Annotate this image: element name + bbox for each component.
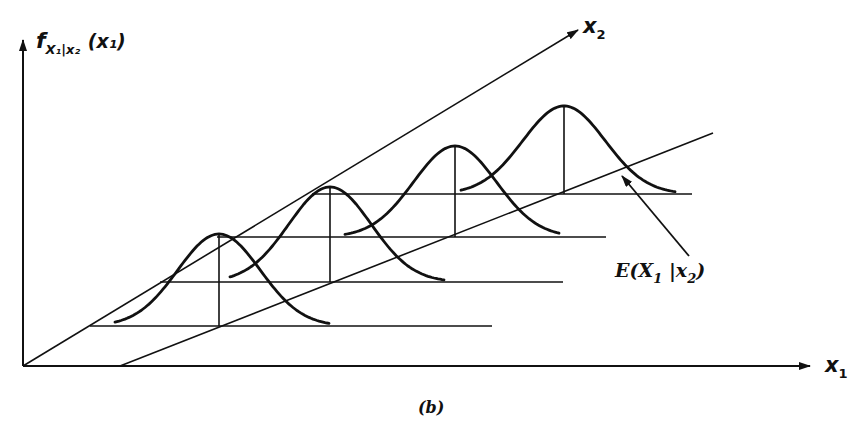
expectation-sub1: 1 [653, 271, 662, 286]
regression-line-label: E(X1 |x2) [615, 259, 705, 281]
expectation-close: ) [696, 259, 705, 281]
x2-axis [23, 30, 578, 366]
conditional-density-diagram [0, 0, 866, 437]
density-symbol: f [36, 28, 46, 53]
regression-line [120, 133, 713, 366]
x2-subscript: 2 [597, 27, 606, 42]
x1-axis-label: x1 [825, 353, 848, 377]
density-argument: (x₁) [88, 30, 126, 52]
expectation-text: E(X [615, 259, 653, 281]
x2-symbol: x [583, 14, 597, 38]
density-curve-1 [115, 234, 329, 323]
density-axis-label: fX₁|x₂ (x₁) [36, 28, 126, 53]
conditional-density-curves [90, 106, 692, 326]
x1-symbol: x [825, 353, 839, 377]
figure-caption: (b) [418, 398, 444, 417]
expectation-sub2: 2 [687, 271, 696, 286]
x2-axis-label: x2 [583, 14, 606, 38]
axes [23, 30, 810, 366]
expectation-mid: |x [662, 259, 687, 281]
density-curve-2 [230, 187, 444, 280]
density-subscript: X₁|x₂ [46, 42, 81, 57]
x1-subscript: 1 [839, 366, 848, 381]
density-curve-3 [345, 146, 559, 234]
